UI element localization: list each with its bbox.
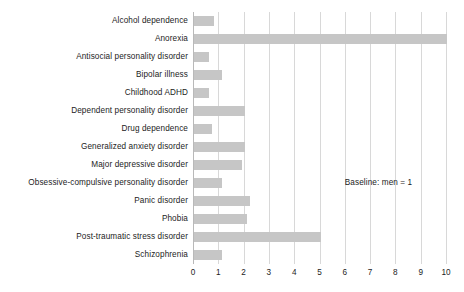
- bar: [194, 250, 222, 260]
- x-tick-label: 1: [216, 268, 221, 277]
- bar: [194, 34, 447, 44]
- category-label: Dependent personality disorder: [0, 102, 193, 120]
- category-label: Obsessive-compulsive personality disorde…: [0, 174, 193, 192]
- x-tick-label: 7: [368, 268, 373, 277]
- bar-row: Alcohol dependence: [193, 12, 446, 30]
- x-tick-label: 4: [292, 268, 297, 277]
- x-tick-label: 3: [267, 268, 272, 277]
- gridline-10: [446, 12, 447, 264]
- x-axis: 012345678910: [193, 264, 446, 286]
- bar-row: Phobia: [193, 210, 446, 228]
- category-label: Childhood ADHD: [0, 84, 193, 102]
- category-label: Post-traumatic stress disorder: [0, 228, 193, 246]
- bar-rows: Alcohol dependenceAnorexiaAntisocial per…: [193, 12, 446, 264]
- bar-row: Anorexia: [193, 30, 446, 48]
- category-label: Drug dependence: [0, 120, 193, 138]
- bar: [194, 142, 245, 152]
- x-tick-label: 8: [393, 268, 398, 277]
- category-label: Antisocial personality disorder: [0, 48, 193, 66]
- bar: [194, 232, 321, 242]
- x-tick-label: 9: [418, 268, 423, 277]
- bar-row: Generalized anxiety disorder: [193, 138, 446, 156]
- bar: [194, 160, 242, 170]
- x-tick-label: 5: [317, 268, 322, 277]
- category-label: Anorexia: [0, 30, 193, 48]
- plot-area: Alcohol dependenceAnorexiaAntisocial per…: [193, 12, 446, 264]
- bar: [194, 196, 250, 206]
- category-label: Panic disorder: [0, 192, 193, 210]
- x-tick-label: 10: [441, 268, 450, 277]
- bar-row: Antisocial personality disorder: [193, 48, 446, 66]
- bar: [194, 70, 222, 80]
- x-tick-label: 6: [343, 268, 348, 277]
- bar: [194, 16, 214, 26]
- category-label: Major depressive disorder: [0, 156, 193, 174]
- x-tick-label: 2: [241, 268, 246, 277]
- category-label: Schizophrenia: [0, 246, 193, 264]
- bar-row: Post-traumatic stress disorder: [193, 228, 446, 246]
- baseline-annotation: Baseline: men = 1: [345, 178, 412, 187]
- bar-row: Bipolar illness: [193, 66, 446, 84]
- bar: [194, 124, 212, 134]
- bar: [194, 88, 209, 98]
- category-label: Bipolar illness: [0, 66, 193, 84]
- bar: [194, 178, 222, 188]
- bar-row: Childhood ADHD: [193, 84, 446, 102]
- bar: [194, 214, 247, 224]
- bar: [194, 106, 245, 116]
- bar-row: Drug dependence: [193, 120, 446, 138]
- x-tick-label: 0: [191, 268, 196, 277]
- category-label: Generalized anxiety disorder: [0, 138, 193, 156]
- category-label: Alcohol dependence: [0, 12, 193, 30]
- bar: [194, 52, 209, 62]
- bar-row: Major depressive disorder: [193, 156, 446, 174]
- category-label: Phobia: [0, 210, 193, 228]
- bar-chart: Alcohol dependenceAnorexiaAntisocial per…: [0, 0, 464, 292]
- bar-row: Panic disorder: [193, 192, 446, 210]
- bar-row: Dependent personality disorder: [193, 102, 446, 120]
- bar-row: Schizophrenia: [193, 246, 446, 264]
